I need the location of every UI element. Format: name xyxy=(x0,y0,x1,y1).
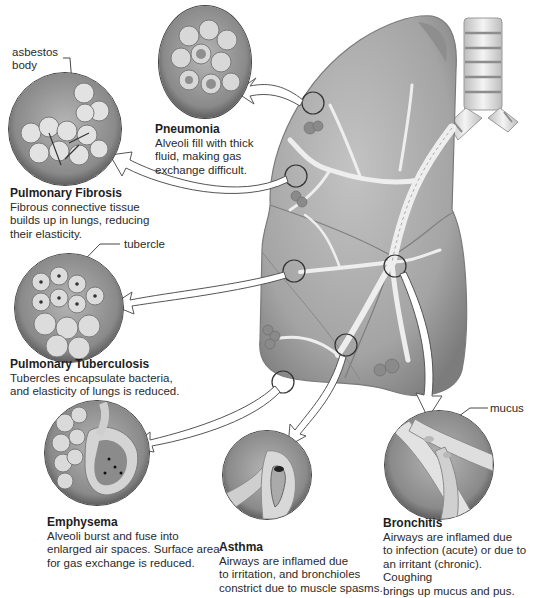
emphysema-inset xyxy=(44,400,150,506)
caption-description: Alveoli burst and fuse into enlarged air… xyxy=(47,530,220,571)
caption-description: Airways are inflamed due to irritation, … xyxy=(219,555,383,596)
caption-pulmonary-fibrosis: Pulmonary Fibrosis Fibrous connective ti… xyxy=(10,187,149,241)
caption-asthma: Asthma Airways are inflamed due to irrit… xyxy=(219,541,383,595)
mucus-label: mucus xyxy=(490,402,524,415)
tuberculosis-inset xyxy=(14,253,124,363)
trachea xyxy=(448,18,518,140)
caption-title: Emphysema xyxy=(47,516,220,530)
fibrosis-inset xyxy=(8,72,122,186)
caption-pneumonia: Pneumonia Alveoli fill with thick fluid,… xyxy=(155,123,253,177)
caption-title: Pneumonia xyxy=(155,123,253,137)
caption-description: Fibrous connective tissue builds up in l… xyxy=(10,201,149,242)
caption-description: Tubercles encapsulate bacteria, and elas… xyxy=(10,372,179,399)
caption-description: Alveoli fill with thick fluid, making ga… xyxy=(155,137,253,178)
caption-pulmonary-tuberculosis: Pulmonary Tuberculosis Tubercles encapsu… xyxy=(10,358,179,399)
caption-title: Asthma xyxy=(219,541,383,555)
caption-bronchitis: Bronchitis Airways are inflamed due to i… xyxy=(383,517,533,598)
caption-description: Airways are inflamed due to infection (a… xyxy=(383,531,533,598)
caption-title: Pulmonary Tuberculosis xyxy=(10,358,179,372)
caption-title: Bronchitis xyxy=(383,517,533,531)
caption-title: Pulmonary Fibrosis xyxy=(10,187,149,201)
bronchitis-inset xyxy=(384,410,494,520)
caption-emphysema: Emphysema Alveoli burst and fuse into en… xyxy=(47,516,220,570)
asbestos-body-label: asbestos body xyxy=(12,46,58,72)
pneumonia-inset xyxy=(158,5,252,119)
asthma-inset xyxy=(222,430,312,520)
